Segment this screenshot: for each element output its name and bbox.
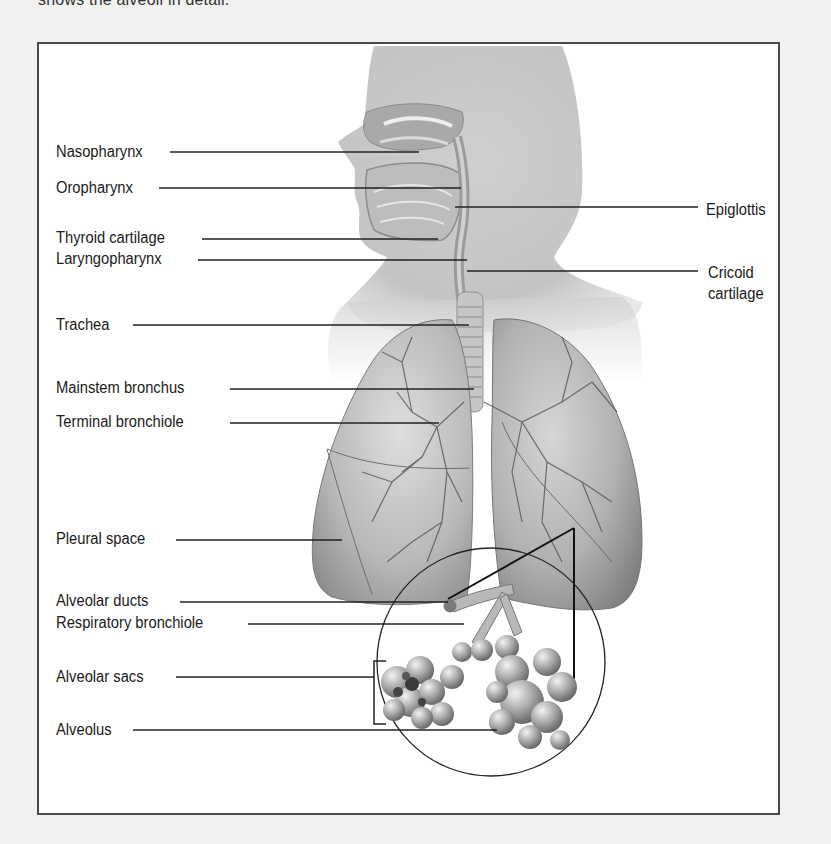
alveoli-cluster — [471, 635, 577, 750]
label-thyroid-cartilage: Thyroid cartilage — [56, 229, 165, 247]
label-alveolus: Alveolus — [56, 721, 112, 739]
label-cricoid-cartilage-line1: Cricoid — [708, 264, 754, 282]
intro-text: shows the alveoli in detail. — [38, 0, 229, 9]
label-respiratory-bronchiole: Respiratory bronchiole — [56, 614, 203, 632]
label-terminal-bronchiole: Terminal bronchiole — [56, 413, 184, 431]
alveolar-sac-cluster — [381, 642, 472, 729]
label-trachea: Trachea — [56, 316, 109, 334]
label-pleural-space: Pleural space — [56, 530, 145, 548]
label-laryngopharynx: Laryngopharynx — [56, 250, 162, 268]
label-alveolar-ducts: Alveolar ducts — [56, 592, 148, 610]
label-mainstem-bronchus: Mainstem bronchus — [56, 379, 184, 397]
label-nasopharynx: Nasopharynx — [56, 143, 143, 161]
head-silhouette — [328, 46, 642, 382]
label-epiglottis: Epiglottis — [706, 201, 766, 219]
label-cricoid-cartilage-line2: cartilage — [708, 285, 764, 303]
label-oropharynx: Oropharynx — [56, 179, 133, 197]
respiratory-system-figure: Nasopharynx Oropharynx Thyroid cartilage… — [37, 42, 780, 815]
label-alveolar-sacs: Alveolar sacs — [56, 668, 144, 686]
